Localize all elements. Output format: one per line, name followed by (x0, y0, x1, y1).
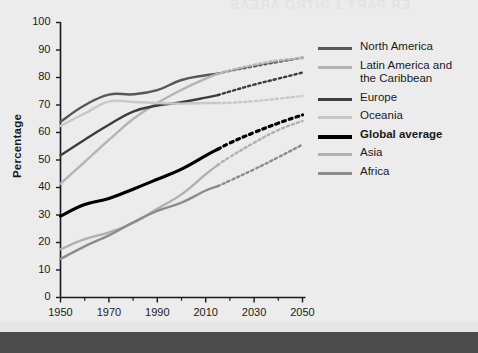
y-tick-label: 70 (21, 98, 51, 110)
chart-legend: North AmericaLatin America andthe Caribb… (318, 40, 476, 183)
legend-swatch-icon (318, 47, 352, 50)
legend-item[interactable]: North America (318, 40, 476, 54)
y-tick-label: 10 (21, 263, 51, 275)
legend-label: Oceania (360, 109, 403, 123)
y-axis-title: Percentage (11, 101, 23, 191)
legend-item[interactable]: Africa (318, 165, 476, 179)
legend-label: Latin America andthe Caribbean (360, 59, 452, 86)
y-tick-label: 90 (21, 43, 51, 55)
legend-swatch-icon (318, 98, 352, 101)
page-canvas: world population, 1950-2050 ER PART 1 IN… (0, 0, 478, 353)
series-global-average (61, 115, 303, 216)
y-tick-label: 100 (21, 15, 51, 27)
legend-item[interactable]: Global average (318, 128, 476, 142)
page-edge-highlight (0, 322, 478, 332)
x-tick-label: 1990 (134, 306, 180, 318)
y-tick-label: 60 (21, 125, 51, 137)
legend-label: Africa (360, 165, 389, 179)
series-asia (61, 121, 303, 249)
x-tick-label: 2030 (231, 306, 277, 318)
chart-series-lines (61, 58, 303, 259)
series-europe (61, 73, 303, 156)
legend-item[interactable]: Asia (318, 146, 476, 160)
y-tick-label: 80 (21, 70, 51, 82)
x-tick-label: 2010 (183, 306, 229, 318)
legend-item[interactable]: Latin America andthe Caribbean (318, 59, 476, 86)
series-oceania (61, 96, 303, 126)
legend-label: Europe (360, 91, 397, 105)
legend-swatch-icon (318, 116, 352, 119)
legend-item[interactable]: Oceania (318, 109, 476, 123)
x-tick-label: 1970 (86, 306, 132, 318)
legend-label: North America (360, 40, 433, 54)
y-tick-label: 40 (21, 180, 51, 192)
legend-swatch-icon (318, 153, 352, 156)
y-tick-label: 20 (21, 235, 51, 247)
series-latin-america-and-the-caribbean (61, 58, 303, 184)
page-footer-bar (0, 332, 478, 353)
legend-item[interactable]: Europe (318, 91, 476, 105)
legend-swatch-icon (318, 172, 352, 175)
legend-swatch-icon (318, 66, 352, 69)
legend-label: Global average (360, 128, 442, 142)
x-tick-label: 2050 (280, 306, 326, 318)
y-tick-label: 0 (21, 290, 51, 302)
y-tick-label: 50 (21, 153, 51, 165)
x-tick-label: 1950 (38, 306, 84, 318)
legend-swatch-icon (318, 135, 352, 139)
legend-label: Asia (360, 146, 382, 160)
y-tick-label: 30 (21, 208, 51, 220)
